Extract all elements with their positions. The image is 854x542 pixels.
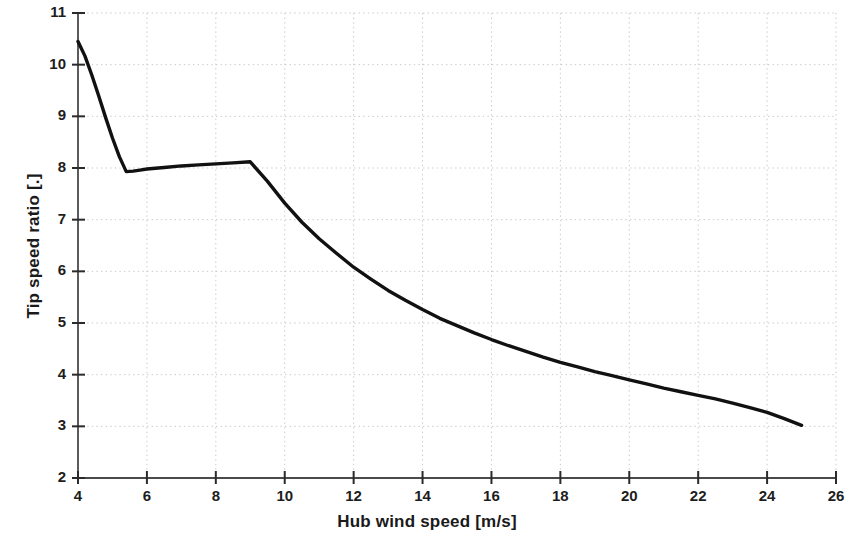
chart-figure: Tip speed ratio [.] Hub wind speed [m/s]… xyxy=(0,0,854,542)
y-tick-label: 10 xyxy=(16,55,66,72)
y-tick-label: 4 xyxy=(16,365,66,382)
x-tick-label: 12 xyxy=(329,487,379,504)
y-tick-label: 11 xyxy=(16,3,66,20)
plot-area xyxy=(0,0,854,542)
x-tick-label: 26 xyxy=(811,487,854,504)
x-tick-label: 6 xyxy=(122,487,172,504)
axis-spines xyxy=(78,13,836,478)
y-tick-label: 9 xyxy=(16,106,66,123)
y-tick-label: 5 xyxy=(16,313,66,330)
x-tick-label: 10 xyxy=(260,487,310,504)
gridlines xyxy=(78,13,836,478)
y-tick-label: 8 xyxy=(16,158,66,175)
y-tick-label: 6 xyxy=(16,261,66,278)
x-tick-label: 14 xyxy=(398,487,448,504)
y-tick-label: 2 xyxy=(16,468,66,485)
data-series-line xyxy=(78,41,802,425)
x-tick-label: 4 xyxy=(53,487,103,504)
x-tick-label: 16 xyxy=(466,487,516,504)
x-tick-label: 20 xyxy=(604,487,654,504)
x-tick-label: 18 xyxy=(535,487,585,504)
x-tick-label: 24 xyxy=(742,487,792,504)
x-tick-label: 22 xyxy=(673,487,723,504)
y-tick-label: 3 xyxy=(16,416,66,433)
x-tick-label: 8 xyxy=(191,487,241,504)
y-tick-label: 7 xyxy=(16,210,66,227)
tick-marks xyxy=(72,13,836,484)
